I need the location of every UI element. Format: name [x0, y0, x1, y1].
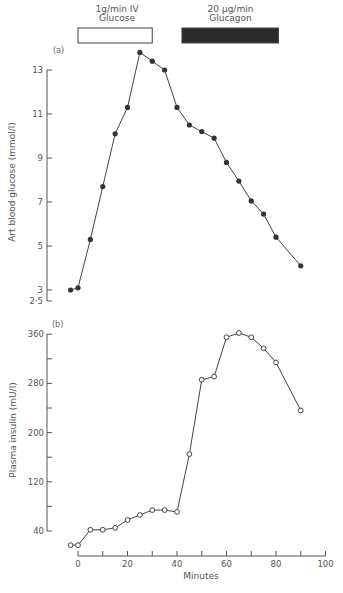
glucose-data-point: [125, 105, 130, 110]
glucose-data-point: [75, 285, 80, 290]
svg-text:2·5: 2·5: [29, 296, 43, 306]
glucose-axes: 2·535791113: [29, 65, 52, 306]
x-axis-label: Minutes: [176, 571, 226, 581]
svg-text:40: 40: [172, 559, 183, 569]
glucose-data-point: [249, 198, 254, 203]
insulin-series: [68, 331, 303, 548]
glucose-data-point: [113, 131, 118, 136]
svg-text:11: 11: [32, 109, 43, 119]
svg-text:13: 13: [32, 65, 43, 75]
glucose-infusion-label-2: Glucose: [79, 13, 155, 23]
insulin-data-point: [113, 526, 118, 531]
insulin-data-point: [100, 527, 105, 532]
insulin-data-point: [76, 543, 81, 548]
svg-text:5: 5: [38, 241, 43, 251]
figure: 2·535791113 40120200280360020406080100: [0, 0, 343, 593]
svg-text:360: 360: [28, 329, 44, 339]
svg-text:60: 60: [221, 559, 232, 569]
insulin-data-point: [125, 518, 130, 523]
insulin-data-point: [68, 543, 73, 548]
glucose-data-point: [261, 212, 266, 217]
infusion-bars: [78, 28, 278, 43]
insulin-data-point: [274, 360, 279, 365]
svg-text:80: 80: [271, 559, 282, 569]
glucose-data-point: [236, 179, 241, 184]
glucagon-infusion-bar: [182, 28, 279, 43]
insulin-data-point: [150, 508, 155, 513]
glucose-data-point: [212, 136, 217, 141]
insulin-data-point: [175, 510, 180, 515]
insulin-data-point: [88, 527, 93, 532]
svg-text:280: 280: [28, 378, 44, 388]
glucose-infusion-bar: [78, 28, 152, 43]
glucose-data-point: [88, 237, 93, 242]
panel-label-a: (a): [53, 46, 64, 55]
svg-text:3: 3: [38, 285, 43, 295]
insulin-data-point: [224, 335, 229, 340]
insulin-data-point: [236, 331, 241, 336]
glucose-data-point: [174, 105, 179, 110]
y-axis-label-glucose: Art blood glucose (mmol/l): [7, 117, 17, 247]
insulin-data-point: [249, 335, 254, 340]
insulin-data-point: [137, 513, 142, 518]
svg-text:100: 100: [317, 559, 333, 569]
glucose-data-point: [162, 67, 167, 72]
glucose-series: [68, 50, 303, 293]
svg-text:120: 120: [28, 477, 44, 487]
svg-text:9: 9: [38, 153, 43, 163]
glucose-data-point: [100, 184, 105, 189]
glucose-data-point: [187, 122, 192, 127]
insulin-data-point: [298, 408, 303, 413]
insulin-axes: 40120200280360020406080100: [28, 329, 334, 569]
svg-text:0: 0: [75, 559, 80, 569]
glucose-data-point: [199, 129, 204, 134]
glucagon-infusion-label-2: Glucagon: [183, 13, 278, 23]
glucose-data-point: [273, 235, 278, 240]
insulin-data-point: [199, 377, 204, 382]
svg-text:40: 40: [33, 526, 44, 536]
svg-text:20: 20: [122, 559, 133, 569]
y-axis-label-insulin: Plasma insulin (mU/l): [8, 375, 18, 485]
glucose-data-point: [150, 59, 155, 64]
panel-label-b: (b): [52, 320, 63, 329]
glucose-data-point: [137, 50, 142, 55]
insulin-data-point: [162, 508, 167, 513]
glucose-data-point: [68, 287, 73, 292]
glucose-data-point: [298, 263, 303, 268]
insulin-data-point: [261, 346, 266, 351]
svg-text:7: 7: [38, 197, 43, 207]
glucose-data-point: [224, 160, 229, 165]
insulin-data-point: [212, 374, 217, 379]
svg-text:200: 200: [28, 428, 44, 438]
insulin-data-point: [187, 452, 192, 457]
